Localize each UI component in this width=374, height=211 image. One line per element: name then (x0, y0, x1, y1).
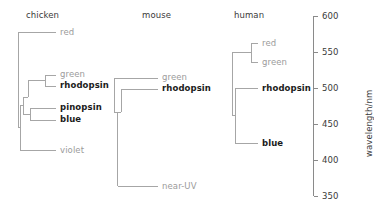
axis-tick-550: 550 (322, 47, 339, 57)
axis-tick-600: 600 (322, 11, 339, 21)
axis-tick-500: 500 (322, 83, 339, 93)
axis-title-wavelength: wavelength/nm (364, 90, 374, 157)
axis-tick-400: 400 (322, 155, 339, 165)
axis-tick-450: 450 (322, 119, 339, 129)
axis-tick-350: 350 (322, 191, 339, 201)
